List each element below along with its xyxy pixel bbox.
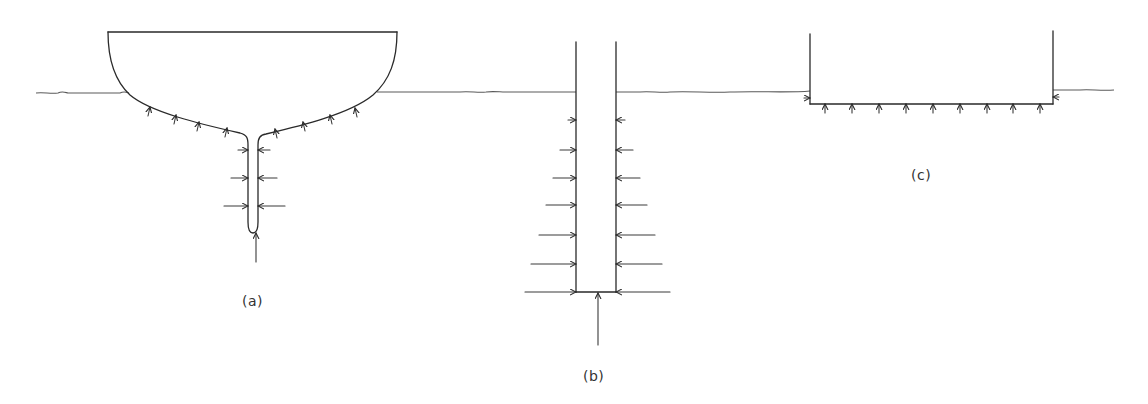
box-corner-arrows — [804, 97, 1059, 98]
waterline-right-of-c — [1053, 90, 1114, 91]
keel-arrows — [224, 150, 285, 206]
waterline-b-to-c — [616, 91, 810, 92]
waterline — [36, 90, 1114, 94]
panel-b-pile — [525, 42, 670, 345]
pile-arrows-right — [616, 120, 670, 292]
hull-outline — [108, 32, 397, 233]
pressure-diagram — [0, 0, 1148, 404]
hull-arrows-right — [275, 108, 357, 138]
pile-arrows-left — [525, 120, 576, 292]
waterline-left-of-a — [36, 92, 129, 93]
label-panel-b: (b) — [583, 368, 604, 384]
box-bottom-arrows — [825, 104, 1040, 113]
waterline-a-to-b — [377, 92, 576, 93]
panel-c-box — [804, 31, 1059, 113]
label-panel-a: (a) — [242, 293, 263, 309]
panel-a-hull — [108, 32, 397, 262]
label-panel-c: (c) — [911, 167, 931, 183]
